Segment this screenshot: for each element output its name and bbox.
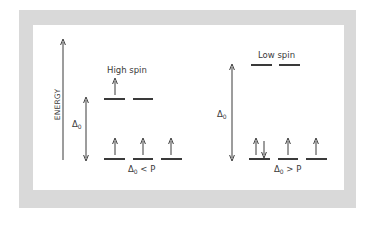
orbital-level-t2g-1 — [104, 158, 125, 160]
condition-high-spin: Δ0 < P — [128, 164, 155, 177]
orbital-level-t2g-3 — [306, 158, 327, 160]
delta-label-low-spin: Δ0 — [217, 109, 227, 122]
orbital-level-t2g-2 — [278, 158, 298, 160]
orbital-level-eg-2 — [279, 64, 300, 66]
orbital-level-eg-2 — [133, 98, 153, 100]
orbital-level-t2g-2 — [133, 158, 153, 160]
energy-axis-label: ENERGY — [53, 84, 62, 126]
orbital-level-eg-1 — [104, 98, 125, 100]
orbital-level-t2g-1 — [249, 158, 270, 160]
high-spin-title: High spin — [107, 65, 147, 75]
condition-low-spin: Δ0 > P — [274, 164, 301, 177]
low-spin-title: Low spin — [258, 50, 295, 60]
orbital-level-t2g-3 — [161, 158, 182, 160]
delta-label-high-spin: Δ0 — [72, 119, 82, 132]
orbital-level-eg-1 — [251, 64, 272, 66]
